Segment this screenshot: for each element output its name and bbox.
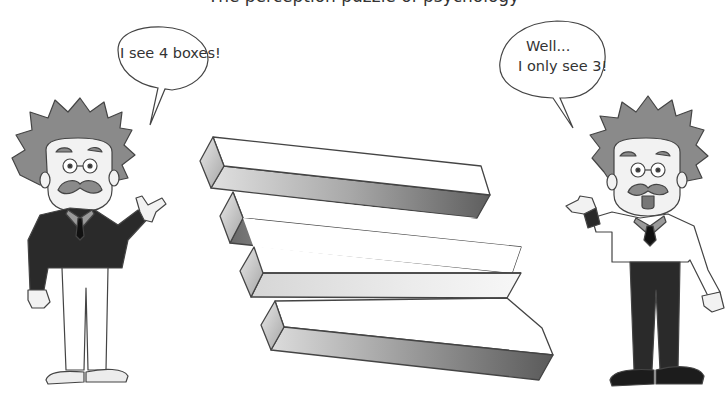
bar-3-front (251, 273, 521, 298)
speech-text-left: I see 4 boxes! (120, 44, 221, 63)
face (46, 138, 112, 212)
right-scientist (566, 96, 724, 386)
cartoon-illustration (0, 0, 727, 401)
speech-text-right-line-1: Well... (526, 37, 570, 56)
illusion-cartoon: The perception puzzle of psychology (0, 0, 727, 401)
speech-text-right-line-2: I only see 3! (518, 57, 607, 76)
impossible-bars-figure (200, 137, 553, 380)
trousers (62, 268, 108, 370)
trousers (630, 262, 680, 370)
speech-bubble-left (118, 27, 208, 125)
tongue (642, 196, 654, 209)
bar-3-top (243, 218, 521, 273)
left-scientist (12, 98, 166, 384)
